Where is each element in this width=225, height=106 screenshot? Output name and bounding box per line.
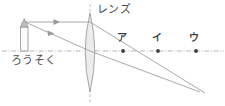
center-ray-arrow-icon [48,30,55,36]
point-label-i: イ [152,33,162,43]
point-label-u: ウ [189,33,199,43]
point-marker-i[interactable] [156,49,160,53]
point-marker-u[interactable] [194,49,198,53]
candle-label: ろうそく [11,55,56,66]
point-label-a: ア [117,33,127,43]
center-refracted-ray [90,51,200,92]
lens-ray-diagram: レンズ ろうそく ア イ ウ [0,0,225,106]
lens-label: レンズ [97,4,131,15]
center-incident-ray [25,22,90,51]
point-marker-a[interactable] [121,49,125,53]
parallel-ray-arrow-icon [54,19,61,25]
candle-body [21,27,29,51]
